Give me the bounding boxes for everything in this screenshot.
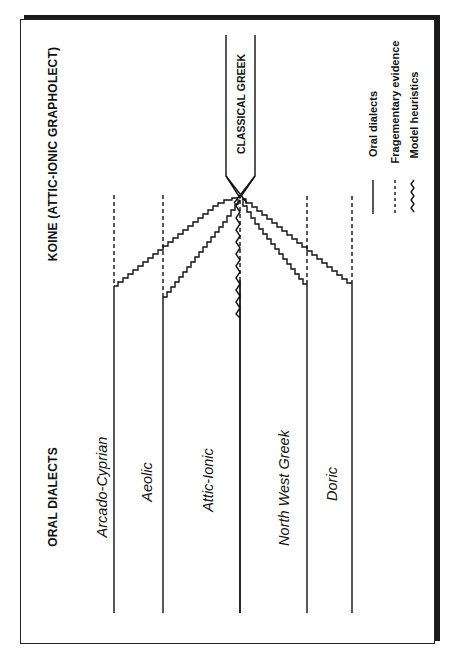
dialect-label-attic-ionic: Attic-Ionic — [200, 448, 216, 512]
legend-label-oral-dialects: Oral dialects — [367, 91, 379, 157]
dialect-label-north-west-greek: North West Greek — [276, 430, 292, 546]
oral-dialects-header: ORAL DIALECTS — [46, 447, 60, 547]
legend-label-model-heuristics: Model heuristics — [408, 72, 420, 159]
classical-greek-label: CLASSICAL GREEK — [235, 54, 247, 154]
zigzag-doric — [242, 199, 352, 283]
chevron-cross — [226, 176, 255, 203]
legend-wavy-symbol — [411, 180, 414, 212]
dialect-label-arcado-cyprian: Arcado-Cyprian — [94, 437, 110, 538]
koine-header: KOINE (ATTIC-IONIC GRAPHOLECT) — [46, 47, 60, 261]
dialect-label-aeolic: Aeolic — [139, 462, 155, 502]
zigzag-arcado-cyprian — [114, 198, 238, 286]
dialect-label-doric: Doric — [324, 467, 340, 501]
legend-label-fragmentary-evidence: Fragementary evidence — [389, 41, 401, 164]
zigzag-aeolic — [163, 199, 238, 297]
